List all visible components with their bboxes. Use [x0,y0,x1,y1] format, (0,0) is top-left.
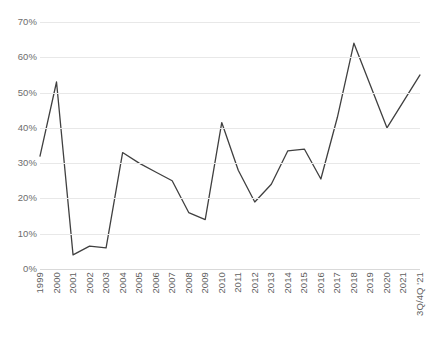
x-tick: 2016 [314,272,328,334]
x-tick-label: 2011 [231,272,245,334]
x-tick: 2021 [396,272,410,334]
y-tick-label: 10% [3,229,37,239]
x-tick-label: 2010 [215,272,229,334]
data-series-line [40,22,420,269]
x-tick-label: 2017 [330,272,344,334]
x-tick: 2020 [380,272,394,334]
x-tick: 2004 [116,272,130,334]
y-tick-label: 70% [3,17,37,27]
x-tick-label: 2002 [83,272,97,334]
x-tick-label: 2018 [347,272,361,334]
x-tick-label: 2009 [198,272,212,334]
x-axis: 1999200020012002200320042005200620072008… [40,272,420,338]
gridline [40,163,420,164]
x-tick-label: 2003 [99,272,113,334]
x-tick: 2003 [99,272,113,334]
x-tick-label: 2007 [165,272,179,334]
plot-area [40,22,420,269]
y-tick-label: 40% [3,123,37,133]
x-tick: 2018 [347,272,361,334]
y-axis: 70%60%50%40%30%20%10%0% [0,0,37,338]
gridline [40,22,420,23]
x-tick-label: 2008 [182,272,196,334]
x-tick: 2019 [363,272,377,334]
x-tick: 2002 [83,272,97,334]
x-tick: 2015 [297,272,311,334]
x-tick: 2008 [182,272,196,334]
x-tick: 2009 [198,272,212,334]
gridline [40,234,420,235]
gridline [40,57,420,58]
x-tick: 2006 [149,272,163,334]
y-tick-label: 0% [3,264,37,274]
gridline [40,93,420,94]
x-tick-label: 2021 [396,272,410,334]
gridline [40,128,420,129]
x-tick: 2017 [330,272,344,334]
x-tick-label: 3Q/4Q '21 [413,272,427,334]
x-tick-label: 2006 [149,272,163,334]
x-tick-label: 2020 [380,272,394,334]
x-tick: 2012 [248,272,262,334]
x-tick-label: 2019 [363,272,377,334]
x-tick-label: 2012 [248,272,262,334]
gridline [40,198,420,199]
x-tick-label: 1999 [33,272,47,334]
x-tick-label: 2000 [50,272,64,334]
y-tick-label: 20% [3,193,37,203]
y-tick-label: 60% [3,52,37,62]
x-tick-label: 2014 [281,272,295,334]
x-tick-label: 2004 [116,272,130,334]
x-tick-label: 2013 [264,272,278,334]
x-tick: 2010 [215,272,229,334]
x-tick: 1999 [33,272,47,334]
x-tick: 2007 [165,272,179,334]
y-tick-label: 50% [3,88,37,98]
y-tick-label: 30% [3,158,37,168]
x-tick-label: 2016 [314,272,328,334]
x-tick: 3Q/4Q '21 [413,272,427,334]
x-tick: 2013 [264,272,278,334]
x-tick: 2005 [132,272,146,334]
x-tick: 2000 [50,272,64,334]
x-tick: 2014 [281,272,295,334]
x-tick-label: 2015 [297,272,311,334]
series-polyline [40,43,420,255]
x-tick: 2001 [66,272,80,334]
x-tick: 2011 [231,272,245,334]
x-tick-label: 2005 [132,272,146,334]
line-chart: 70%60%50%40%30%20%10%0% 1999200020012002… [0,0,443,338]
x-tick-label: 2001 [66,272,80,334]
gridline [40,269,420,270]
